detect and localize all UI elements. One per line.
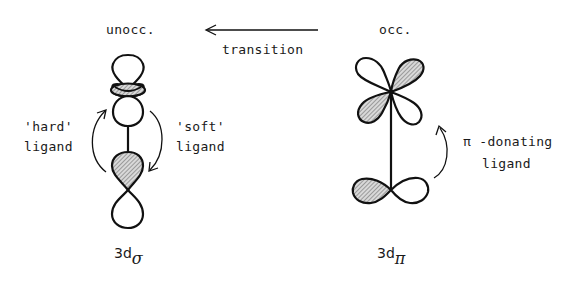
d-pi-subscript: π	[395, 249, 406, 268]
pi-donating-label-line1: π -donating	[463, 134, 552, 149]
d-pi-label: 3dπ	[377, 245, 405, 268]
d-sigma-prefix: 3d	[114, 245, 132, 261]
transition-arrow	[206, 25, 318, 35]
d-sigma-subscript: σ	[132, 249, 143, 268]
bottom-left-lobe	[353, 179, 391, 204]
hard-ligand-arrow	[92, 110, 106, 172]
clover-lower-right	[391, 92, 421, 124]
clover-lower-left	[358, 92, 391, 123]
middle-lobe	[113, 96, 143, 126]
soft-ligand-label-line1: 'soft'	[176, 119, 225, 134]
clover-upper-right	[391, 59, 424, 92]
bottom-right-lobe	[391, 178, 428, 203]
hard-ligand-label-line2: ligand	[24, 139, 73, 154]
d-pi-orbital	[353, 58, 428, 203]
d-pi-prefix: 3d	[377, 245, 395, 261]
d-sigma-label: 3dσ	[114, 245, 143, 268]
d-sigma-orbital	[111, 55, 145, 228]
clover-upper-left	[356, 58, 391, 92]
bottom-lobe	[112, 190, 143, 228]
transition-label: transition	[222, 42, 303, 57]
occupied-label: occ.	[379, 22, 412, 37]
shaded-lobe	[112, 152, 143, 190]
soft-ligand-arrow	[149, 111, 162, 171]
unoccupied-label: unocc.	[106, 22, 155, 37]
pi-donating-arrow	[434, 126, 447, 178]
soft-ligand-label-line2: ligand	[176, 139, 225, 154]
pi-donating-label-line2: ligand	[482, 156, 531, 171]
hard-ligand-label-line1: 'hard'	[24, 119, 73, 134]
